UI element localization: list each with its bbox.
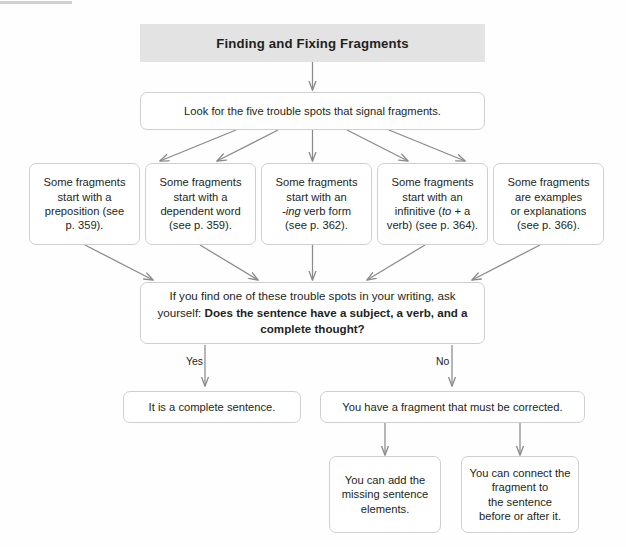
step-look-for-trouble-spots: Look for the five trouble spots that sig… (140, 92, 485, 130)
line-3: or explanations (511, 205, 587, 217)
line-3: the sentence (488, 496, 552, 508)
line-1: Some fragments (507, 176, 589, 188)
trouble-spot-ing-verb-form-text: Some fragments start with an -ing verb f… (262, 175, 371, 232)
line-2: start with an (402, 191, 462, 203)
trouble-spot-preposition: Some fragments start with a preposition … (29, 163, 140, 245)
line-4: (see p. 359). (169, 219, 232, 231)
arrow-intro-to-preposition (160, 130, 236, 161)
flowchart-page: Finding and Fixing Fragments Look for th… (0, 0, 626, 547)
line-1: Some fragments (391, 176, 473, 188)
line-2: are examples (515, 191, 582, 203)
line-2: fragment to (492, 481, 549, 493)
arrow-intro-to-infinitive (347, 130, 408, 161)
question-box: If you find one of these trouble spots i… (140, 282, 485, 344)
flowchart-title-text: Finding and Fixing Fragments (216, 36, 409, 51)
trouble-spot-infinitive: Some fragments start with an infinitive … (377, 163, 488, 245)
line-3-pre: infinitive ( (395, 205, 442, 217)
line-2: start with a (173, 191, 227, 203)
question-bold-text: Does the sentence have a subject, a verb… (205, 306, 468, 335)
line-3-italic: to (442, 205, 451, 217)
line-1: Some fragments (159, 176, 241, 188)
arrow-infinitive-to-question (367, 245, 425, 280)
line-1: You can add the (345, 474, 425, 486)
trouble-spot-dependent-word-text: Some fragments start with a dependent wo… (146, 175, 255, 232)
line-3-italic: -ing (282, 205, 301, 217)
line-4: (see p. 366). (517, 219, 580, 231)
arrow-examples-to-question (472, 245, 540, 280)
line-2: start with an (286, 191, 346, 203)
line-3-rest: verb form (301, 205, 351, 217)
line-2: start with a (57, 191, 111, 203)
outcome-complete-sentence-text: It is a complete sentence. (124, 400, 300, 414)
fix-add-missing-elements: You can add the missing sentence element… (329, 456, 441, 533)
trouble-spot-examples-explanations: Some fragments are examples or explanati… (493, 163, 604, 245)
question-text: If you find one of these trouble spots i… (141, 288, 484, 337)
line-4: verb) (see p. 364). (387, 219, 478, 231)
line-3-rest: + a (451, 205, 470, 217)
line-3: preposition (see (45, 205, 125, 217)
arrow-preposition-to-question (85, 245, 153, 280)
arrow-intro-to-examples (389, 130, 465, 161)
scan-artifact (0, 1, 72, 4)
line-2: missing sentence (342, 488, 428, 500)
outcome-complete-sentence: It is a complete sentence. (123, 391, 301, 423)
line-3: elements. (361, 503, 410, 515)
trouble-spot-preposition-text: Some fragments start with a preposition … (30, 175, 139, 232)
line-1: Some fragments (43, 176, 125, 188)
fix-connect-fragment-text: You can connect the fragment to the sent… (462, 466, 578, 523)
trouble-spot-ing-verb-form: Some fragments start with an -ing verb f… (261, 163, 372, 245)
arrow-dependent-to-question (200, 245, 258, 280)
trouble-spot-infinitive-text: Some fragments start with an infinitive … (378, 175, 487, 232)
arrow-intro-to-dependent (217, 130, 278, 161)
trouble-spot-dependent-word: Some fragments start with a dependent wo… (145, 163, 256, 245)
line-4: p. 359). (66, 219, 104, 231)
line-4: (see p. 362). (285, 219, 348, 231)
line-1: You can connect the (470, 467, 571, 479)
outcome-fragment-text: You have a fragment that must be correct… (321, 400, 584, 414)
branch-label-yes: Yes (186, 356, 203, 367)
line-4: before or after it. (479, 510, 561, 522)
flowchart-title-banner: Finding and Fixing Fragments (140, 24, 485, 62)
line-3: dependent word (160, 205, 240, 217)
line-1: Some fragments (275, 176, 357, 188)
fix-add-missing-elements-text: You can add the missing sentence element… (330, 473, 440, 516)
outcome-fragment-must-be-corrected: You have a fragment that must be correct… (320, 391, 585, 423)
trouble-spot-examples-explanations-text: Some fragments are examples or explanati… (494, 175, 603, 232)
branch-label-no: No (436, 356, 449, 367)
step-intro-text: Look for the five trouble spots that sig… (141, 104, 484, 118)
fix-connect-fragment: You can connect the fragment to the sent… (461, 456, 579, 533)
